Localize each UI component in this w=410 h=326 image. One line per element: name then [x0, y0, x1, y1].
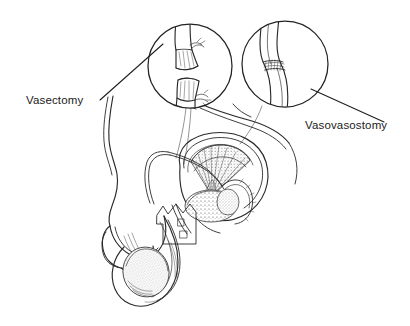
vasovasostomy-leader-line: [311, 89, 384, 122]
illustration-figure: Vasectomy Vasovasostomy: [0, 0, 410, 326]
scrotum: [112, 216, 180, 306]
vasectomy-label: Vasectomy: [26, 94, 83, 106]
anatomy-group: [102, 96, 297, 306]
illustration-canvas: Vasectomy Vasovasostomy: [0, 0, 410, 326]
vasectomy-inset: [146, 20, 236, 124]
testis-left: [118, 243, 173, 301]
testis-body-cutaway: [185, 189, 239, 222]
abdomen-torso: [104, 96, 118, 226]
vasovasostomy-label: Vasovasostomy: [305, 119, 387, 131]
vasovasostomy-inset: [240, 18, 332, 110]
seminiferous-tubules: [191, 145, 250, 196]
